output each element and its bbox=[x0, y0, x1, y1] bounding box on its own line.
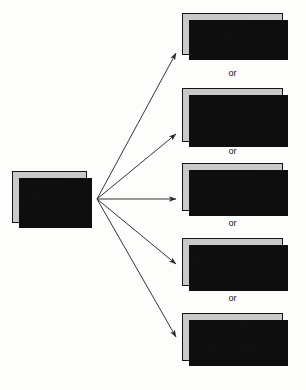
separator-or-2: or bbox=[182, 218, 283, 228]
condition-node-text: Minor has lied about age (in most states… bbox=[190, 244, 276, 279]
connector-to-condition-3 bbox=[97, 199, 176, 264]
separator-or-0: or bbox=[182, 68, 283, 78]
connector-to-condition-0 bbox=[97, 53, 176, 199]
condition-node-text: Contract is for necessaries bbox=[190, 19, 276, 42]
condition-node-text: Minor has ratified contract on reaching … bbox=[190, 319, 276, 354]
source-node-line-2: a contract bbox=[20, 200, 59, 210]
condition-node-real-estate-minority: Contract is for real estate and minor ha… bbox=[182, 88, 283, 142]
condition-node-return-status-quo: Minor is required to return adult to sta… bbox=[182, 163, 283, 211]
condition-node-text: Contract is for real estate and minor ha… bbox=[190, 94, 276, 140]
condition-node-text: Minor is required to return adult to sta… bbox=[190, 169, 276, 204]
condition-node-lied-about-age: Minor has lied about age (in most states… bbox=[182, 238, 283, 286]
source-node-minors-disaffirm: Minors candisaffirma contractunless: bbox=[12, 171, 87, 223]
condition-node-necessaries: Contract is for necessaries bbox=[182, 13, 283, 55]
separator-or-3: or bbox=[182, 293, 283, 303]
source-node-emphasis: unless: bbox=[20, 212, 48, 222]
condition-node-ratified-on-majority: Minor has ratified contract on reaching … bbox=[182, 313, 283, 361]
separator-or-1: or bbox=[182, 146, 283, 156]
source-node-text: Minors candisaffirma contractunless: bbox=[20, 177, 80, 223]
connector-to-condition-1 bbox=[97, 134, 176, 199]
diagram-canvas: Minors candisaffirma contractunless: Con… bbox=[0, 0, 306, 390]
connector-to-condition-4 bbox=[97, 199, 176, 337]
source-node-line-0: Minors can bbox=[20, 177, 64, 187]
source-node-line-1: disaffirm bbox=[20, 189, 54, 199]
